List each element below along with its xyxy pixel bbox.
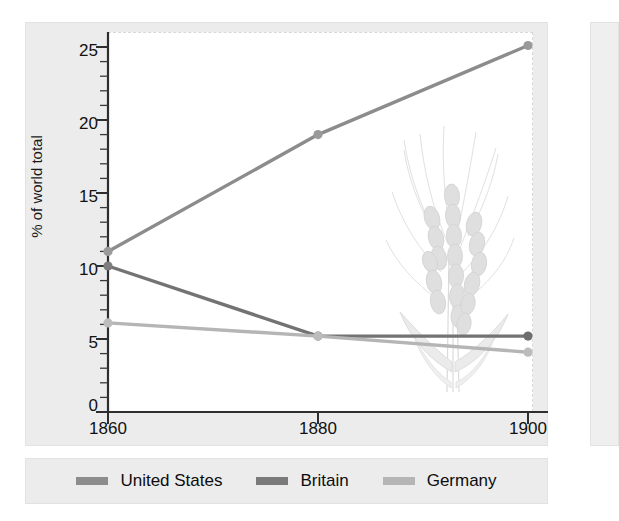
chart-figure: % of world total 25 20 15 10 5 0 1860 18…	[0, 0, 619, 521]
x-major-ticks	[108, 412, 528, 424]
wheat-watermark-icon	[386, 126, 514, 392]
legend-item-united-states[interactable]: United States	[76, 471, 222, 491]
y-minor-ticks	[100, 62, 108, 398]
legend-swatch-icon-germany	[383, 477, 415, 485]
chart-canvas	[0, 0, 619, 521]
legend-label-united-states: United States	[120, 471, 222, 491]
legend-label-britain: Britain	[300, 471, 348, 491]
legend-swatch-icon-united-states	[76, 477, 108, 485]
legend-label-germany: Germany	[427, 471, 497, 491]
legend-swatch-icon-britain	[256, 477, 288, 485]
chart-legend: United States Britain Germany	[25, 458, 548, 504]
legend-item-germany[interactable]: Germany	[383, 471, 497, 491]
y-major-ticks	[96, 47, 108, 412]
legend-item-britain[interactable]: Britain	[256, 471, 348, 491]
